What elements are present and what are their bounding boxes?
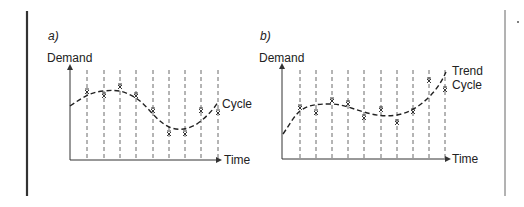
panel-b-xlabel: Time <box>452 152 479 166</box>
panel-b-ylabel: Demand <box>259 51 304 65</box>
panel-a-cycle-curve <box>70 90 218 129</box>
panel-b-cycle-label: Cycle <box>452 78 482 92</box>
edge-dot <box>517 21 519 23</box>
panel-b-trend-label: Trend <box>452 64 483 78</box>
panel-b-trend-cycle-curve <box>283 72 446 134</box>
panel-a-label: a) <box>48 29 59 43</box>
panel-a-data-points <box>85 84 220 136</box>
panel-b-data-points <box>298 78 447 125</box>
panel-b-label: b) <box>260 29 271 43</box>
panel-b-period-gridlines <box>300 70 445 158</box>
panel-a-xlabel: Time <box>224 153 251 167</box>
panel-a: a) Demand Time Cycle <box>47 29 252 167</box>
panel-a-cycle-label: Cycle <box>222 97 252 111</box>
panel-b: b) Demand Time Trend Cycle <box>259 29 483 166</box>
panel-a-ylabel: Demand <box>47 51 92 65</box>
demand-pattern-diagram: a) Demand Time Cycle <box>0 0 524 207</box>
panel-a-period-gridlines <box>87 70 218 159</box>
